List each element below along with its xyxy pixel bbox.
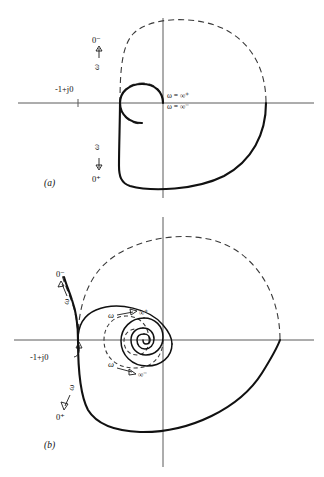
omega-label-lower-a: ω (91, 144, 101, 150)
omega-zero-minus-label-b: 0⁻ (56, 269, 65, 279)
curve-b-solid-spiral-turn2 (121, 318, 172, 366)
plot-a-canvas: -1+j0 ω = ∞⁺ ω = ∞⁻ 0⁻ ω ω 0⁺ (a) (0, 0, 324, 205)
omega-zero-plus-label-b: 0⁺ (56, 412, 65, 422)
curve-b-solid-outer-lobe (78, 340, 280, 432)
omega-zero-minus-label-a: 0⁻ (92, 35, 101, 45)
omega-zero-plus-label-a: 0⁺ (92, 174, 101, 184)
omega-label-upper-branch-b: ω (108, 310, 114, 320)
curve-b-solid-zero-plus-tail (64, 277, 78, 340)
nyquist-plot-b: -1+j0 ω ∞⁺ ω ∞⁻ 0⁻ ω ω 0⁺ (b) (0, 205, 324, 477)
nyquist-figure: -1+j0 ω = ∞⁺ ω = ∞⁻ 0⁻ ω ω 0⁺ (a) (0, 0, 324, 477)
omega-label-lower-branch-b: ω (108, 359, 114, 369)
omega-infinity-minus-label-b: ∞⁻ (138, 370, 147, 379)
omega-zero-plus-direction-label-b: ω (65, 383, 76, 391)
critical-point-label-b: -1+j0 (30, 352, 49, 362)
omega-infinity-minus-arrowhead-b (129, 369, 136, 375)
curve-a-solid-outer-lobe (119, 103, 266, 189)
omega-infinity-plus-label-a: ω = ∞⁺ (167, 91, 189, 100)
curve-b-dashed-zero-minus-tail (62, 275, 78, 340)
omega-zero-minus-direction-label-b: ω (60, 297, 71, 305)
plot-a-caption: (a) (44, 178, 55, 189)
omega-infinity-plus-label-b: ∞⁺ (139, 308, 148, 317)
plot-b-caption: (b) (44, 440, 55, 451)
curve-b-solid-spiral-turn1 (78, 306, 172, 344)
omega-zero-plus-arrowhead-b (61, 402, 68, 410)
nyquist-plot-a: -1+j0 ω = ∞⁺ ω = ∞⁻ 0⁻ ω ω 0⁺ (a) (0, 0, 324, 205)
omega-infinity-minus-label-a: ω = ∞⁻ (167, 102, 189, 111)
omega-zero-minus-arrowhead-b (58, 281, 64, 287)
curve-a-dashed-outer-lobe (120, 20, 266, 103)
plot-b-canvas: -1+j0 ω ∞⁺ ω ∞⁻ 0⁻ ω ω 0⁺ (b) (0, 205, 324, 477)
curve-b-solid-spiral-turn4 (137, 328, 154, 349)
omega-label-upper-a: ω (91, 64, 101, 70)
critical-point-label-a: -1+j0 (55, 84, 74, 94)
